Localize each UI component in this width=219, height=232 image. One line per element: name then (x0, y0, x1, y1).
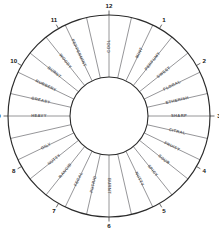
clock-number: 2 (203, 57, 207, 64)
sector-label: BURNT (107, 178, 112, 194)
sector-label: BURNT (47, 65, 63, 79)
clock-number: 5 (162, 207, 166, 214)
clock-number: 10 (10, 57, 17, 64)
sector-spoke (87, 18, 101, 78)
clock-tick (18, 63, 22, 65)
sector-label: OILY (40, 141, 52, 150)
clock-number: 4 (203, 167, 207, 174)
clock-tick (160, 25, 162, 29)
clock-tick (196, 167, 200, 169)
sector-label: CITRAL (168, 127, 186, 136)
odor-wheel-figure: COOLMINTPERFUMYSWEETFLORALETHERISHSHARPC… (0, 0, 219, 232)
sector-label: FRUITY (164, 140, 181, 152)
sector-label: WOODY (58, 53, 73, 70)
sector-label: COOL (106, 39, 111, 52)
sector-label: FECAL (73, 171, 84, 187)
sector-label: SWEET (156, 65, 172, 79)
clock-tick (18, 167, 22, 169)
sector-spoke (118, 154, 132, 214)
sector-label: SPICY (147, 163, 160, 177)
clock-number: 9 (0, 112, 1, 119)
sector-label: NUTTY (46, 153, 61, 167)
clock-tick (56, 203, 58, 207)
sector-label: GREASY (31, 95, 51, 104)
sector-label: RANCID (57, 162, 72, 179)
clock-number: 3 (217, 112, 219, 119)
clock-number: 8 (12, 167, 16, 174)
clock-number: 1 (162, 16, 166, 23)
sector-label: PUTRID (89, 175, 98, 193)
sector-label: NUTTY (134, 171, 145, 187)
clock-number: 7 (52, 207, 56, 214)
sector-label: PERFUMY (143, 51, 161, 72)
sector-label: PEPPERMINT (70, 38, 88, 67)
sector-label: MINT (134, 46, 144, 59)
inner-ring-circle (70, 77, 148, 155)
sector-label: ETHERISH (165, 95, 189, 105)
clock-tick (56, 25, 58, 29)
sector-label: RUBBERY (35, 78, 57, 92)
odor-wheel-diagram: COOLMINTPERFUMYSWEETFLORALETHERISHSHARPC… (0, 0, 219, 232)
sector-spoke (11, 125, 71, 139)
clock-tick (196, 63, 200, 65)
sector-label: SOUR (157, 153, 170, 165)
sector-label: HEAVY (31, 113, 47, 118)
clock-number: 6 (107, 222, 111, 229)
sector-label: FLORAL (162, 79, 181, 92)
clock-number: 11 (51, 16, 58, 23)
sector-label: SHARP (171, 113, 187, 118)
sector-spoke (118, 18, 132, 78)
clock-number: 12 (106, 2, 113, 9)
